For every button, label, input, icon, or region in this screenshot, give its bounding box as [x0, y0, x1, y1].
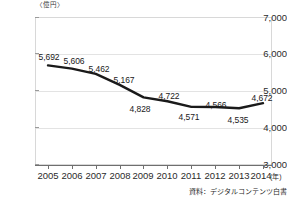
chart-container: 〈億円〉 7,000 6,000 5,000 4,000 3,000 2005 …: [0, 0, 287, 199]
data-label-2014: 4,672: [252, 94, 273, 103]
data-label-2007: 5,462: [89, 65, 110, 74]
source-note: 資料：デジタルコンテンツ白書: [189, 187, 287, 196]
data-label-2011: 4,571: [179, 113, 200, 122]
data-label-2009: 4,828: [130, 105, 151, 114]
series-line: [0, 0, 287, 199]
data-label-2010: 4,722: [159, 92, 180, 101]
data-label-2008: 5,167: [114, 76, 135, 85]
data-label-2013: 4,535: [228, 116, 249, 125]
data-label-2005: 5,692: [39, 53, 60, 62]
data-label-2012: 4,566: [206, 101, 227, 110]
data-label-2006: 5,606: [64, 57, 85, 66]
